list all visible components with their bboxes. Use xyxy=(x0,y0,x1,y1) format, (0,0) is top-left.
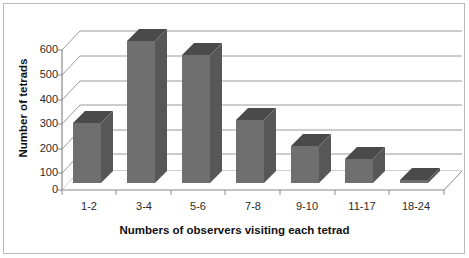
x-tick-7-8: 7-8 xyxy=(223,200,283,212)
y-tick-500: 500 xyxy=(28,69,58,80)
plot-area: 600 500 400 300 200 100 0 1-2 3-4 5-6 7-… xyxy=(0,0,469,258)
bar-9-10[interactable] xyxy=(291,134,331,183)
bar-5-6[interactable] xyxy=(182,43,222,183)
y-tick-300: 300 xyxy=(28,118,58,129)
bar-3-4[interactable] xyxy=(127,29,167,183)
gridline-top xyxy=(62,31,462,50)
bar-7-8[interactable] xyxy=(236,108,276,183)
x-tick-9-10: 9-10 xyxy=(277,200,337,212)
y-tick-200: 200 xyxy=(28,143,58,154)
chart-screenshot: 600 500 400 300 200 100 0 1-2 3-4 5-6 7-… xyxy=(0,0,469,258)
y-axis-tick-labels: 600 500 400 300 200 100 0 xyxy=(26,0,58,258)
x-tick-5-6: 5-6 xyxy=(168,200,228,212)
y-axis-title: Number of tetrads xyxy=(17,33,29,183)
bar-1-2[interactable] xyxy=(73,111,113,183)
y-tick-400: 400 xyxy=(28,94,58,105)
gridline-600 xyxy=(62,56,462,75)
chart-canvas xyxy=(0,0,469,258)
y-tick-600: 600 xyxy=(28,44,58,55)
x-axis-title: Numbers of observers visiting each tetra… xyxy=(0,224,469,236)
x-tick-18-24: 18-24 xyxy=(386,200,446,212)
gridline-500 xyxy=(62,81,462,100)
x-tick-1-2: 1-2 xyxy=(59,200,119,212)
x-axis-ticks xyxy=(62,190,444,195)
x-tick-11-17: 11-17 xyxy=(332,200,392,212)
y-tick-100: 100 xyxy=(28,167,58,178)
x-tick-3-4: 3-4 xyxy=(114,200,174,212)
y-tick-0: 0 xyxy=(28,184,58,195)
